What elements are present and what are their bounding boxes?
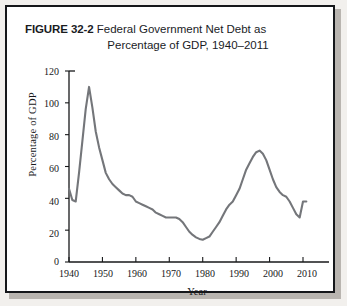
figure-frame: FIGURE 32-2 Federal Government Net Debt … xyxy=(5,5,335,293)
debt-series-line xyxy=(69,87,306,240)
axis-ticks xyxy=(65,71,303,262)
figure-container: FIGURE 32-2 Federal Government Net Debt … xyxy=(0,0,347,306)
chart-axes xyxy=(7,7,347,306)
chart-plot-area: Percentage of GDP Year 120 100 80 60 40 … xyxy=(7,7,347,306)
